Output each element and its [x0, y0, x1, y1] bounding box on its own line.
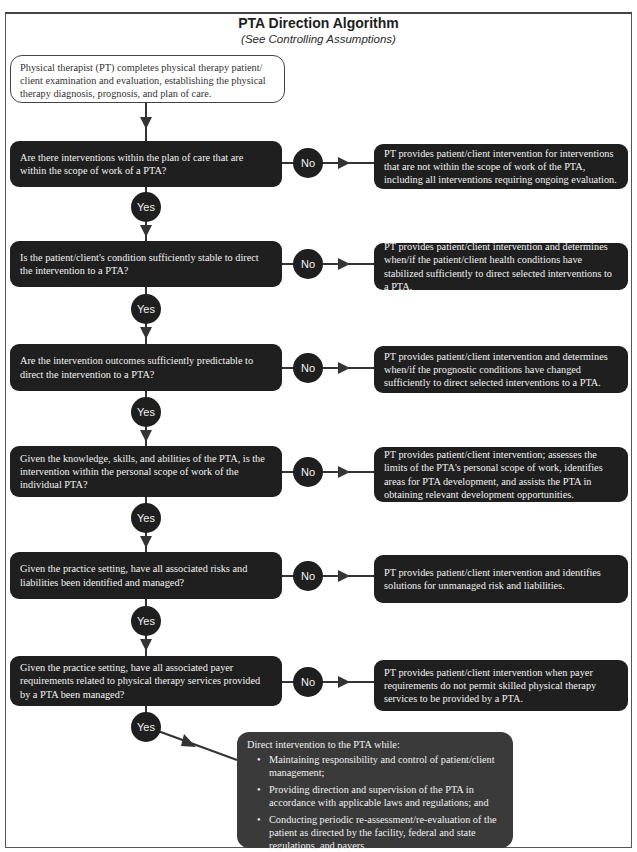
final-bullet: Maintaining responsibility and control o… [269, 753, 503, 779]
yes-circle-2: Yes [131, 294, 161, 324]
no-action-box-4: PT provides patient/client intervention;… [374, 447, 628, 502]
final-bullet: Providing direction and supervision of t… [269, 783, 503, 809]
connector-lines [0, 0, 637, 852]
final-bullet: Conducting periodic re-assessment/re-eva… [269, 813, 503, 852]
final-action-box: Direct intervention to the PTA while: Ma… [237, 732, 513, 848]
decision-box-6: Given the practice setting, have all ass… [10, 656, 282, 706]
no-action-box-5: PT provides patient/client intervention … [374, 555, 628, 603]
yes-circle-4: Yes [131, 503, 161, 533]
decision-box-4: Given the knowledge, skills, and abiliti… [10, 446, 282, 497]
no-action-box-3: PT provides patient/client intervention … [374, 346, 628, 393]
final-intro: Direct intervention to the PTA while: [247, 738, 503, 751]
yes-circle-3: Yes [131, 397, 161, 427]
final-bullet-list: Maintaining responsibility and control o… [247, 753, 503, 852]
decision-box-1: Are there interventions within the plan … [10, 141, 282, 187]
yes-circle-1: Yes [131, 192, 161, 222]
decision-box-5: Given the practice setting, have all ass… [10, 552, 282, 599]
no-action-box-1: PT provides patient/client intervention … [374, 144, 628, 189]
no-circle-2: No [293, 249, 323, 279]
no-circle-1: No [293, 148, 323, 178]
no-action-box-2: PT provides patient/client intervention … [374, 243, 628, 290]
no-circle-5: No [293, 561, 323, 591]
no-action-box-6: PT provides patient/client intervention … [374, 660, 628, 711]
no-circle-3: No [293, 353, 323, 383]
no-circle-4: No [293, 457, 323, 487]
no-circle-6: No [293, 667, 323, 697]
decision-box-2: Is the patient/client's condition suffic… [10, 241, 282, 287]
yes-circle-6: Yes [131, 712, 161, 742]
decision-box-3: Are the intervention outcomes sufficient… [10, 344, 282, 391]
yes-circle-5: Yes [131, 606, 161, 636]
start-box: Physical therapist (PT) completes physic… [10, 55, 285, 103]
